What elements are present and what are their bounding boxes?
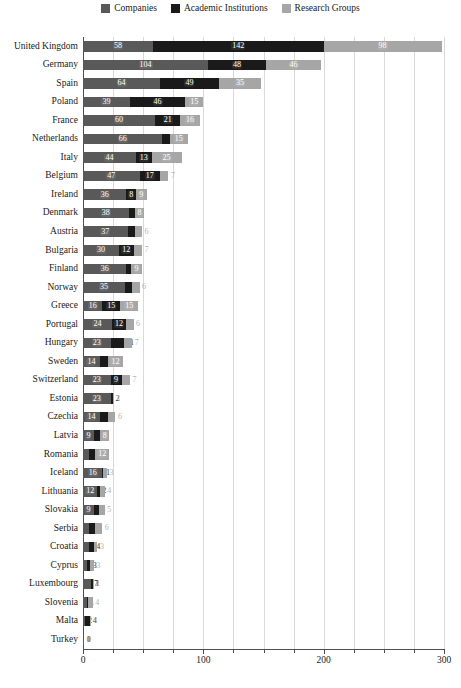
category-label: Latvia xyxy=(54,431,78,441)
bar-value-label: 13 xyxy=(139,154,149,162)
bar-value-label: 23 xyxy=(92,376,102,384)
bar-row: Czechia1476 xyxy=(83,412,444,423)
bar-row: France602116 xyxy=(83,115,444,126)
bar-value-label: 5 xyxy=(107,506,111,514)
x-axis-tick xyxy=(173,649,174,653)
bar-value-label: 9 xyxy=(113,376,119,384)
bar-value-label: 6 xyxy=(144,228,148,236)
bar-value-label: 14 xyxy=(86,358,96,366)
bar-value-holder: 12 xyxy=(95,449,109,460)
bar-segment xyxy=(126,319,133,330)
legend-item-companies: Companies xyxy=(101,4,157,14)
bar-value-label: 23 xyxy=(92,395,102,403)
bar-value-label: 0 xyxy=(87,636,91,644)
legend-swatch-research-groups xyxy=(282,4,291,13)
gridline xyxy=(444,37,445,649)
legend-item-research-groups: Research Groups xyxy=(282,4,360,14)
bar-value-holder: 35 xyxy=(83,282,125,293)
bar-value-label: 36 xyxy=(100,265,110,273)
bar-value-holder: 49 xyxy=(160,78,219,89)
bar-value-label: 1 xyxy=(94,617,98,625)
bar-segment xyxy=(160,171,168,182)
x-axis-tick xyxy=(203,649,204,654)
bar-value-label: 16 xyxy=(88,469,98,477)
stacked-bar-chart: Companies Academic Institutions Research… xyxy=(0,0,461,688)
category-label: Switzerland xyxy=(33,375,78,385)
bar-value-holder: 58 xyxy=(83,41,153,52)
legend-swatch-academic-institutions xyxy=(171,4,180,13)
bar-value-label: 48 xyxy=(232,61,242,69)
bar-row: Latvia958 xyxy=(83,430,444,441)
bar-value-label: 9 xyxy=(85,506,91,514)
bar-value-label: 12 xyxy=(121,246,131,254)
category-label: Slovakia xyxy=(45,505,78,515)
bar-segment xyxy=(135,226,142,237)
bar-value-label: 6 xyxy=(142,283,146,291)
bar-value-holder: 36 xyxy=(83,264,126,275)
x-axis-tick-label: 100 xyxy=(196,656,210,666)
bar-value-label: 25 xyxy=(162,154,172,162)
bar-value-holder: 38 xyxy=(83,208,129,219)
bar-value-label: 66 xyxy=(118,135,128,143)
bar-value-holder: 66 xyxy=(83,134,162,145)
bar-value-label: 3 xyxy=(96,562,100,570)
bar-segment xyxy=(99,505,105,516)
bar-value-label: 4 xyxy=(107,487,111,495)
bar-value-label: 37 xyxy=(100,228,110,236)
bar-value-label: 14 xyxy=(86,413,96,421)
bar-row: Malta241 xyxy=(83,616,444,627)
bar-value-holder: 21 xyxy=(155,115,180,126)
bar-row: Hungary23117 xyxy=(83,338,444,349)
bar-segment xyxy=(100,356,108,367)
bar-row: Denmark3858 xyxy=(83,208,444,219)
bar-row: Norway3566 xyxy=(83,282,444,293)
legend-swatch-companies xyxy=(101,4,110,13)
bar-value-holder: 16 xyxy=(83,301,102,312)
legend-label-research-groups: Research Groups xyxy=(295,4,360,14)
bar-value-holder: 36 xyxy=(83,189,126,200)
category-label: Serbia xyxy=(54,524,78,534)
bar-value-label: 1 xyxy=(96,580,100,588)
bar-row: Turkey100 xyxy=(83,634,444,645)
bar-segment xyxy=(90,616,91,627)
bar-value-label: 12 xyxy=(85,487,95,495)
bar-value-label: 36 xyxy=(100,191,110,199)
category-label: France xyxy=(52,116,78,126)
bar-segment xyxy=(124,338,132,349)
category-label: Austria xyxy=(50,227,78,237)
bar-value-holder: 98 xyxy=(324,41,442,52)
bar-value-label: 1 xyxy=(117,395,121,403)
bar-value-label: 49 xyxy=(184,79,194,87)
bar-value-label: 47 xyxy=(106,172,116,180)
bar-row: Belgium47177 xyxy=(83,171,444,182)
bar-value-holder: 47 xyxy=(83,171,140,182)
x-axis-tick xyxy=(113,649,114,653)
bar-value-label: 16 xyxy=(185,116,195,124)
category-label: Netherlands xyxy=(32,134,78,144)
bar-row: Sweden14712 xyxy=(83,356,444,367)
x-axis-tick xyxy=(354,649,355,653)
bar-row: Luxembourg711 xyxy=(83,579,444,590)
bar-value-label: 12 xyxy=(110,358,120,366)
bar-value-label: 6 xyxy=(136,320,140,328)
bar-segment xyxy=(103,468,107,479)
bar-segment xyxy=(128,226,135,237)
category-label: Finland xyxy=(49,264,78,274)
bar-value-holder: 8 xyxy=(126,189,136,200)
bar-value-label: 6 xyxy=(118,413,122,421)
bar-segment xyxy=(111,338,124,349)
bar-value-holder: 15 xyxy=(102,301,120,312)
bar-value-holder: 23 xyxy=(83,375,111,386)
category-label: Italy xyxy=(61,153,78,163)
bar-value-holder: 37 xyxy=(83,226,128,237)
bar-row: Slovakia945 xyxy=(83,505,444,516)
bar-row: Italy441325 xyxy=(83,152,444,163)
x-axis-tick xyxy=(143,649,144,653)
bar-row: United Kingdom5814298 xyxy=(83,41,444,52)
bar-value-holder: 60 xyxy=(83,115,155,126)
bar-value-holder: 14 xyxy=(83,356,100,367)
bar-value-holder: 14 xyxy=(83,412,100,423)
bar-row: Switzerland2397 xyxy=(83,375,444,386)
category-label: Portugal xyxy=(46,320,78,330)
x-axis-tick xyxy=(384,649,385,653)
